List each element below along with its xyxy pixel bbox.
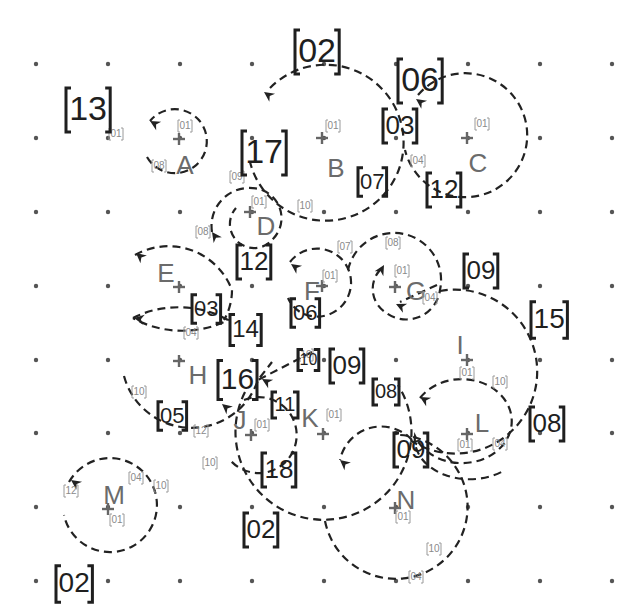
svg-text:12: 12: [239, 246, 268, 276]
small-tag: 04: [129, 472, 143, 484]
grid-dot: [538, 505, 542, 509]
svg-text:01: 01: [459, 439, 471, 450]
node-label: I: [456, 330, 463, 360]
grid-dot: [106, 358, 110, 362]
svg-text:01: 01: [328, 409, 340, 420]
svg-text:09: 09: [396, 434, 425, 464]
svg-text:12: 12: [65, 485, 77, 496]
svg-text:10: 10: [494, 376, 506, 387]
big-tag: 17: [242, 131, 286, 175]
svg-text:12: 12: [195, 425, 207, 436]
node-k: K: [301, 403, 329, 440]
big-tag: 18: [262, 453, 296, 487]
svg-text:01: 01: [110, 128, 122, 139]
svg-text:01: 01: [396, 265, 408, 276]
grid-dot: [178, 210, 182, 214]
svg-text:02: 02: [59, 567, 90, 598]
svg-text:09: 09: [466, 255, 495, 285]
big-tag: 05: [158, 402, 187, 431]
svg-text:03: 03: [385, 110, 414, 140]
svg-text:01: 01: [111, 514, 123, 525]
big-tag: 09: [464, 254, 498, 288]
node-e: E: [157, 258, 185, 293]
grid-dot: [34, 210, 38, 214]
small-tag: 01: [475, 118, 489, 130]
grid-dot: [250, 505, 254, 509]
small-tag: 08: [196, 226, 210, 238]
svg-text:04: 04: [410, 571, 422, 582]
node-label: L: [475, 408, 489, 438]
grid-dot: [106, 579, 110, 583]
node-label: K: [301, 403, 319, 433]
svg-text:17: 17: [245, 132, 283, 170]
grid-dot: [34, 62, 38, 66]
small-tag: 01: [110, 514, 124, 526]
grid-dot: [538, 358, 542, 362]
node-label: H: [189, 360, 208, 390]
grid-dot: [34, 431, 38, 435]
small-tag: 01: [326, 120, 340, 132]
grid-dot: [610, 210, 614, 214]
svg-text:04: 04: [185, 327, 197, 338]
grid-dot: [34, 358, 38, 362]
svg-text:15: 15: [534, 303, 565, 334]
grid-dot: [178, 62, 182, 66]
grid-dot: [466, 210, 470, 214]
grid-dot: [610, 62, 614, 66]
small-tag: 08: [386, 237, 400, 249]
big-tag: 14: [230, 314, 261, 345]
small-tag: 10: [427, 543, 441, 555]
big-tag: 11: [272, 392, 298, 418]
grid-dot: [610, 358, 614, 362]
small-tag: 04: [409, 571, 423, 583]
svg-text:02: 02: [298, 31, 336, 69]
big-tag: 02: [56, 566, 92, 602]
node-a: A: [173, 133, 194, 180]
svg-text:04: 04: [412, 155, 424, 166]
arrowhead-icon: [261, 88, 275, 102]
node-label: M: [103, 480, 125, 510]
svg-text:07: 07: [360, 169, 384, 194]
svg-text:11: 11: [275, 393, 296, 415]
small-tag: 07: [338, 241, 352, 253]
arrowhead-icon: [219, 400, 233, 414]
small-tag: 10: [154, 480, 168, 492]
big-tag: 02: [244, 513, 278, 547]
grid-dot: [106, 210, 110, 214]
node-label: D: [257, 211, 276, 241]
small-tag: 10: [203, 457, 217, 469]
svg-text:01: 01: [256, 419, 268, 430]
svg-text:01: 01: [476, 118, 488, 129]
grid-dot: [610, 136, 614, 140]
arc-L: [415, 379, 512, 479]
svg-text:04: 04: [130, 472, 142, 483]
small-tag: 01: [460, 367, 474, 379]
grid-dot: [178, 579, 182, 583]
big-tag: 02: [295, 30, 339, 74]
big-tag: 09: [330, 349, 364, 383]
big-tag: 03: [383, 109, 417, 143]
svg-text:14: 14: [232, 315, 259, 342]
grid-dot: [538, 62, 542, 66]
node-label: E: [157, 258, 174, 288]
grid-dot: [34, 284, 38, 288]
grid-dot: [250, 62, 254, 66]
big-tag: 13: [66, 88, 110, 132]
svg-text:08: 08: [197, 226, 209, 237]
small-tag: 04: [493, 438, 507, 450]
svg-text:04: 04: [424, 292, 436, 303]
svg-text:10: 10: [299, 200, 311, 211]
node-j: J: [234, 405, 258, 441]
node-m: M: [102, 480, 125, 515]
svg-text:01: 01: [397, 511, 409, 522]
grid-dot: [610, 579, 614, 583]
node-g: G: [389, 276, 426, 306]
svg-text:10: 10: [204, 457, 216, 468]
svg-text:08: 08: [387, 237, 399, 248]
svg-text:05: 05: [160, 403, 184, 428]
big-tag: 09: [394, 433, 428, 467]
big-tag: 03: [192, 295, 221, 324]
svg-text:07: 07: [339, 241, 351, 252]
small-tag: 12: [64, 485, 78, 497]
grid-dot: [34, 505, 38, 509]
